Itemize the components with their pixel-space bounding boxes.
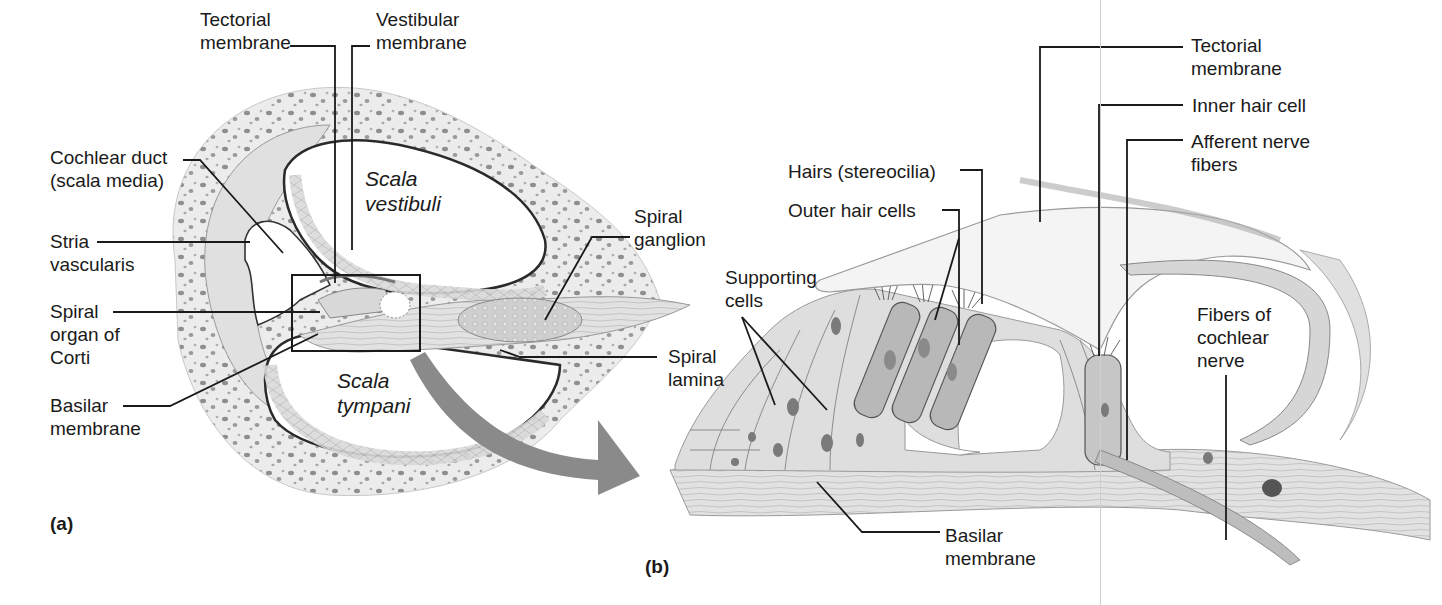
label-hairs-stereocilia: Hairs (stereocilia) [788, 160, 936, 183]
panel-label-a: (a) [50, 512, 73, 535]
label-basilar-membrane-b: Basilar membrane [945, 524, 1036, 570]
label-cochlear-duct: Cochlear duct (scala media) [50, 146, 167, 192]
label-basilar-membrane-a: Basilar membrane [50, 394, 141, 440]
label-fibers-of-cochlear-nerve: Fibers of cochlear nerve [1197, 303, 1271, 372]
spiral-ganglion [458, 298, 582, 342]
label-tectorial-membrane-a: Tectorial membrane [200, 8, 291, 54]
region-scala-vestibuli: Scala vestibuli [365, 166, 441, 216]
label-vestibular-membrane: Vestibular membrane [376, 8, 467, 54]
label-outer-hair-cells: Outer hair cells [788, 199, 916, 222]
panel-a-illustration [97, 46, 690, 496]
panel-label-b: (b) [645, 555, 669, 578]
label-supporting-cells: Supporting cells [725, 266, 817, 312]
region-scala-tympani: Scala tympani [337, 368, 411, 418]
label-inner-hair-cell: Inner hair cell [1192, 94, 1306, 117]
label-afferent-nerve-fibers: Afferent nerve fibers [1191, 130, 1310, 176]
label-spiral-lamina: Spiral lamina [668, 345, 724, 391]
label-spiral-ganglion: Spiral ganglion [634, 205, 706, 251]
label-spiral-organ-of-corti: Spiral organ of Corti [50, 300, 120, 369]
page-fold-line [1100, 0, 1101, 605]
label-tectorial-membrane-b: Tectorial membrane [1191, 34, 1282, 80]
label-stria-vascularis: Stria vascularis [50, 230, 134, 276]
